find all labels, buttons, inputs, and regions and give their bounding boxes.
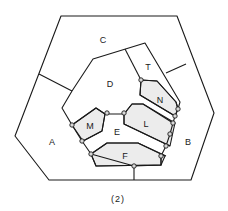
node — [105, 111, 109, 115]
node — [132, 164, 136, 168]
region-label-n: N — [157, 96, 164, 105]
region-label-a: A — [49, 138, 55, 147]
diagram: A B C D T N M E L F (2) — [0, 0, 228, 211]
region-label-l: L — [143, 120, 148, 129]
region-graph — [0, 0, 228, 211]
node — [89, 152, 93, 156]
edge-c-a — [39, 74, 72, 91]
node — [70, 123, 74, 127]
region-label-d: D — [107, 80, 114, 89]
region-label-c: C — [100, 36, 107, 45]
region-label-m: M — [86, 122, 94, 131]
node — [159, 154, 163, 158]
node — [80, 139, 84, 143]
node — [164, 144, 168, 148]
node — [122, 111, 126, 115]
node — [173, 114, 177, 118]
region-label-e: E — [114, 128, 120, 137]
region-label-f: F — [122, 152, 128, 161]
figure-caption: (2) — [111, 194, 125, 204]
node — [176, 107, 180, 111]
edge-c-b — [166, 64, 186, 73]
region-label-b: B — [185, 138, 191, 147]
node — [139, 78, 143, 82]
node — [168, 132, 172, 136]
region-label-t: T — [145, 63, 151, 72]
edge-d-t — [125, 49, 141, 80]
node — [171, 121, 175, 125]
